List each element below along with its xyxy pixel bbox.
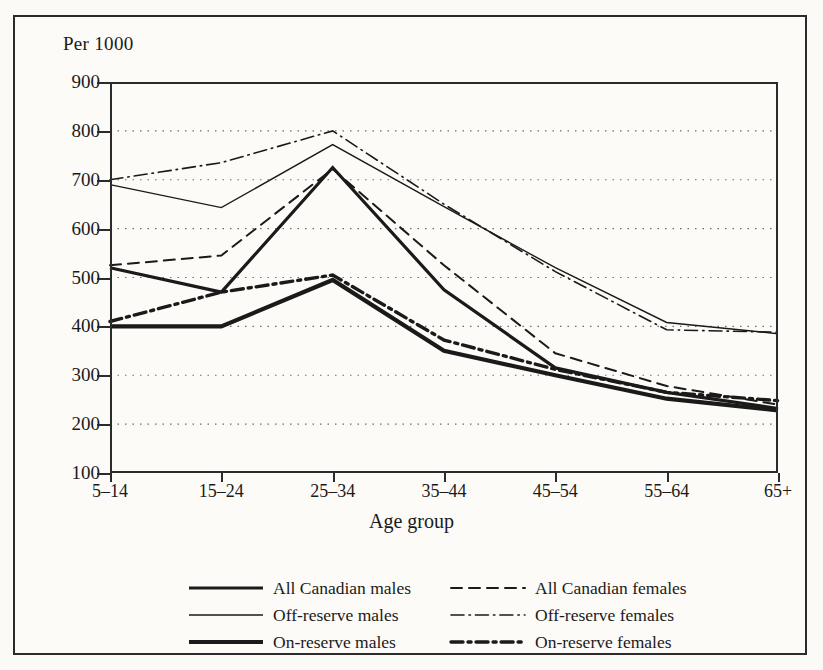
x-tick-label: 35–44 — [422, 481, 467, 502]
y-tick-mark — [97, 278, 110, 280]
y-tick-mark — [97, 229, 110, 231]
legend-item-off-reserve-females[interactable]: Off-reserve females — [450, 602, 708, 628]
plot-area — [110, 82, 778, 473]
legend-label: On-reserve females — [535, 632, 672, 653]
y-axis-tick-marks — [96, 82, 110, 473]
legend-label: Off-reserve males — [273, 605, 399, 626]
legend-label: All Canadian males — [273, 578, 411, 599]
x-tick-label: 45–54 — [533, 481, 578, 502]
y-axis-unit-label: Per 1000 — [63, 33, 133, 55]
legend-label: All Canadian females — [535, 578, 687, 599]
y-tick-mark — [97, 82, 110, 84]
legend-item-on-reserve-males[interactable]: On-reserve males — [188, 629, 443, 655]
legend-item-off-reserve-males[interactable]: Off-reserve males — [188, 602, 443, 628]
y-tick-mark — [97, 424, 110, 426]
legend-swatch-off-reserve-males — [188, 608, 264, 622]
legend-swatch-all-canadian-males — [188, 581, 264, 595]
x-tick-label: 55–64 — [644, 481, 689, 502]
x-tick-label: 25–34 — [310, 481, 355, 502]
legend-swatch-off-reserve-females — [450, 608, 526, 622]
legend-label: Off-reserve females — [535, 605, 674, 626]
y-tick-mark — [97, 180, 110, 182]
x-tick-label: 15–24 — [199, 481, 244, 502]
legend-item-all-canadian-males[interactable]: All Canadian males — [188, 575, 443, 601]
plot-frame — [110, 82, 778, 473]
legend-item-all-canadian-females[interactable]: All Canadian females — [450, 575, 708, 601]
y-axis-tick-labels: 900800700600500400300200100 — [48, 82, 100, 473]
legend-swatch-on-reserve-females — [450, 635, 526, 649]
y-tick-mark — [97, 131, 110, 133]
figure-page: Per 1000 900800700600500400300200100 5–1… — [0, 0, 823, 670]
y-tick-mark — [97, 375, 110, 377]
y-tick-mark — [97, 326, 110, 328]
legend-label: On-reserve males — [273, 632, 396, 653]
legend-item-on-reserve-females[interactable]: On-reserve females — [450, 629, 708, 655]
x-tick-label: 5–14 — [92, 481, 128, 502]
x-tick-label: 65+ — [764, 481, 792, 502]
x-axis-title: Age group — [0, 510, 823, 533]
y-tick-mark — [97, 473, 110, 475]
legend-swatch-on-reserve-males — [188, 635, 264, 649]
x-axis-tick-labels: 5–1415–2425–3435–4445–5455–6465+ — [110, 481, 778, 507]
legend-swatch-all-canadian-females — [450, 581, 526, 595]
chart-legend: All Canadian malesAll Canadian femalesOf… — [188, 575, 708, 657]
